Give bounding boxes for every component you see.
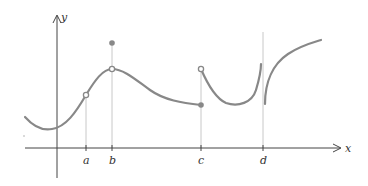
- curve-left: [25, 69, 201, 129]
- stray-dot: [23, 135, 24, 136]
- curve-middle: [201, 64, 261, 104]
- tick-label-c: c: [198, 154, 204, 167]
- open-point-a: [83, 92, 88, 97]
- tick-label-a: a: [83, 154, 90, 167]
- y-axis-label: y: [60, 11, 68, 24]
- x-axis-label: x: [345, 142, 352, 155]
- curve-right: [265, 40, 321, 104]
- filled-point-c: [198, 102, 204, 108]
- function-graph: y x a b c d: [0, 0, 368, 186]
- tick-label-d: d: [260, 154, 267, 167]
- open-point-b: [109, 66, 114, 71]
- open-point-c: [198, 66, 203, 71]
- filled-point-b: [109, 40, 115, 46]
- tick-label-b: b: [109, 154, 116, 167]
